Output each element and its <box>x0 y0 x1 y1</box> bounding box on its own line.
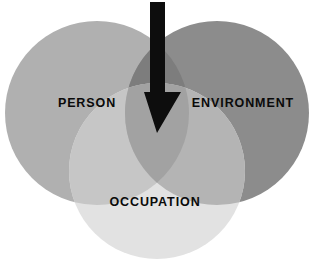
label-occupation: OCCUPATION <box>109 195 200 209</box>
venn-diagram: PERSON ENVIRONMENT OCCUPATION <box>0 0 314 268</box>
label-environment: ENVIRONMENT <box>192 96 294 110</box>
label-person: PERSON <box>58 96 116 110</box>
venn-diagram-canvas: PERSON ENVIRONMENT OCCUPATION <box>0 0 314 268</box>
